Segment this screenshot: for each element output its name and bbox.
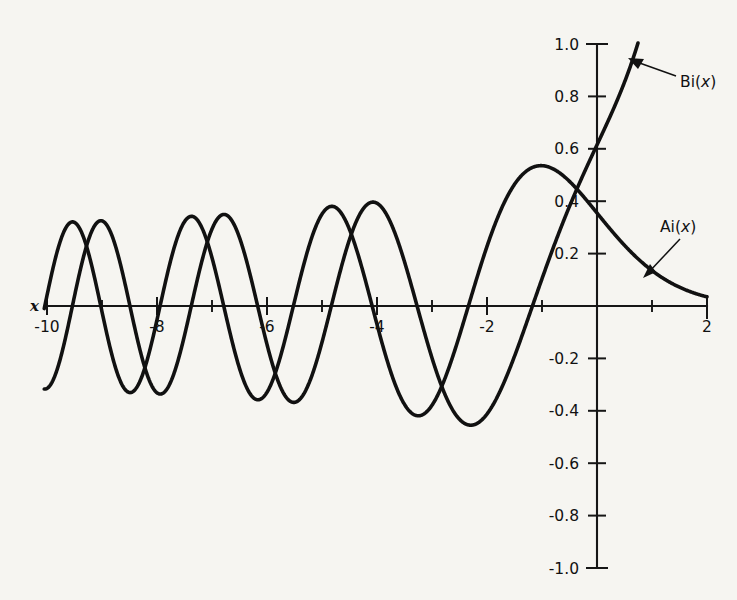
bi-label-suffix: )	[710, 73, 716, 91]
x-tick-label-1: -8	[149, 318, 164, 336]
ai-label-suffix: )	[690, 218, 696, 236]
x-tick-label-0: -10	[34, 318, 59, 336]
x-axis-name: x	[29, 297, 40, 315]
bi-label: Bi(x)	[680, 73, 716, 91]
bi-label-prefix: Bi(	[680, 73, 701, 91]
y-tick-label-4: 0.2	[554, 245, 579, 263]
y-tick-label-0: 1.0	[554, 36, 579, 54]
y-tick-label-6: -0.4	[549, 402, 579, 420]
plot-background	[0, 0, 737, 600]
y-tick-label-9: -1.0	[549, 560, 579, 578]
airy-function-figure: -10-8-6-4-22 1.00.80.60.40.2-0.2-0.4-0.6…	[0, 0, 737, 600]
y-tick-label-1: 0.8	[554, 88, 579, 106]
ai-label: Ai(x)	[660, 218, 696, 236]
y-tick-label-7: -0.6	[549, 455, 579, 473]
y-tick-label-5: -0.2	[549, 350, 579, 368]
x-tick-label-5: 2	[702, 318, 712, 336]
plot-canvas: -10-8-6-4-22 1.00.80.60.40.2-0.2-0.4-0.6…	[0, 0, 737, 600]
x-tick-label-4: -2	[479, 318, 494, 336]
y-tick-label-2: 0.6	[554, 140, 579, 158]
ai-label-prefix: Ai(	[660, 218, 681, 236]
y-tick-label-3: 0.4	[554, 193, 579, 211]
y-tick-label-8: -0.8	[549, 507, 579, 525]
x-tick-label-2: -6	[259, 318, 274, 336]
x-tick-label-3: -4	[369, 318, 384, 336]
